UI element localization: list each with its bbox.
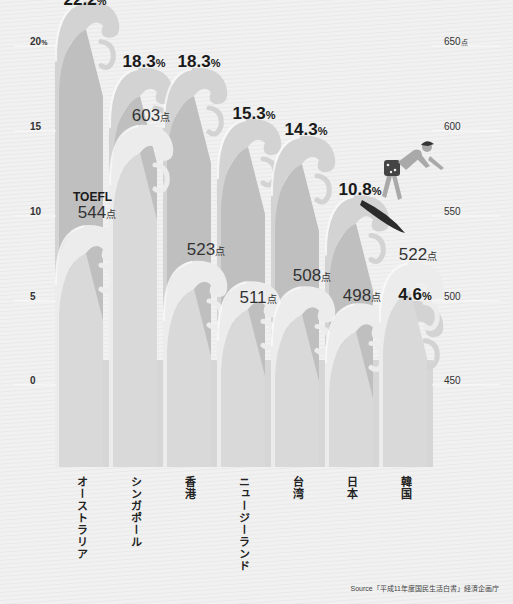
percent-label-4: 14.3% xyxy=(285,120,328,140)
country-label-4: 台湾 xyxy=(290,476,306,500)
toefl-score-label-1: 603点 xyxy=(132,106,170,126)
toefl-score-label-6: 522点 xyxy=(399,245,437,265)
country-label-5: 日本 xyxy=(344,476,360,500)
source-note: Source「平成11年度国民生活白書」経済企画庁 xyxy=(351,583,499,593)
toefl-title-label: TOEFL xyxy=(73,190,112,204)
right-axis-tick-4: 450 xyxy=(444,375,461,386)
country-label-0: オーストラリア xyxy=(74,476,90,560)
toefl-score-label-4: 508点 xyxy=(293,266,331,286)
left-axis-tick-1: 15 xyxy=(30,121,41,132)
country-label-3: ニュージーランド xyxy=(236,476,252,572)
left-axis-tick-3: 5 xyxy=(30,291,36,302)
percent-label-6: 4.6% xyxy=(398,285,431,305)
toefl-score-label-5: 498点 xyxy=(343,286,381,306)
right-axis-tick-2: 550 xyxy=(444,206,461,217)
country-label-1: シンガポール xyxy=(128,476,144,548)
toefl-score-label-3: 511点 xyxy=(239,288,276,308)
left-axis-tick-4: 0 xyxy=(30,375,36,386)
toefl-score-label-0: 544点 xyxy=(78,203,116,223)
right-axis-tick-0: 650点 xyxy=(444,36,468,47)
left-axis-tick-2: 10 xyxy=(30,206,41,217)
percent-label-0: 22.2% xyxy=(64,0,107,10)
percent-label-2: 18.3% xyxy=(178,52,221,72)
toefl-score-label-2: 523点 xyxy=(187,240,225,260)
right-axis-tick-1: 600 xyxy=(444,121,461,132)
percent-label-5: 10.8% xyxy=(339,180,382,200)
percent-label-1: 18.3% xyxy=(123,52,166,72)
left-axis-tick-0: 20% xyxy=(30,36,47,47)
country-label-6: 韓国 xyxy=(398,476,414,500)
country-label-2: 香港 xyxy=(182,476,198,500)
percent-label-3: 15.3% xyxy=(233,104,276,124)
right-axis-tick-3: 500 xyxy=(444,291,461,302)
